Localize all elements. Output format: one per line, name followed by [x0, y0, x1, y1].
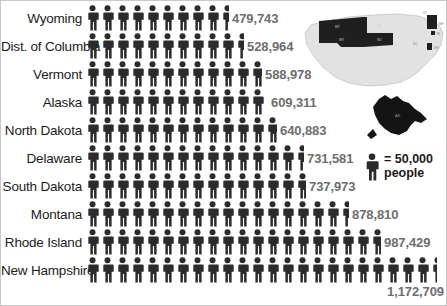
row-pictograms — [85, 201, 349, 227]
row-pictograms — [85, 229, 381, 255]
person-icon — [220, 201, 235, 227]
row-label: North Dakota — [1, 123, 85, 138]
person-icon-partial — [295, 145, 304, 171]
person-icon — [220, 229, 235, 255]
person-icon — [145, 61, 160, 87]
person-icon — [130, 173, 145, 199]
person-icon — [190, 117, 205, 143]
person-icon — [160, 61, 175, 87]
row-label: Dist. of Columbia — [1, 39, 85, 54]
person-icon — [145, 5, 160, 31]
person-icon — [250, 201, 265, 227]
person-icon — [130, 145, 145, 171]
person-icon — [190, 145, 205, 171]
person-icon — [205, 5, 220, 31]
legend: = 50,000 people — [364, 153, 433, 181]
person-icon — [220, 117, 235, 143]
person-icon — [265, 229, 280, 255]
person-icon — [280, 257, 295, 283]
person-icon — [280, 173, 295, 199]
person-icon — [235, 173, 250, 199]
infographic-frame: Wyoming479,743Dist. of Columbia528,964Ve… — [0, 0, 447, 306]
aleutian-tail — [367, 129, 377, 139]
person-icon — [145, 173, 160, 199]
person-icon — [130, 33, 145, 59]
person-icon — [100, 33, 115, 59]
person-icon — [205, 61, 220, 87]
row-pictograms — [85, 61, 262, 87]
person-icon — [175, 33, 190, 59]
person-icon — [160, 89, 175, 115]
person-icon — [115, 5, 130, 31]
person-icon-partial — [235, 33, 244, 59]
row-label: New Hampshire — [1, 263, 85, 278]
person-icon — [235, 145, 250, 171]
person-icon — [190, 173, 205, 199]
person-icon — [295, 229, 310, 255]
person-icon — [370, 257, 385, 283]
row-pictograms — [85, 33, 244, 59]
person-icon — [355, 229, 370, 255]
person-icon — [235, 201, 250, 227]
person-icon — [145, 33, 160, 59]
row-label: South Dakota — [1, 179, 85, 194]
person-icon — [160, 257, 175, 283]
person-icon — [220, 61, 235, 87]
us-states-map: MT ND SD WY VT NH RI DC DE — [301, 3, 447, 89]
row-pictograms — [85, 173, 306, 199]
person-icon — [160, 201, 175, 227]
person-icon — [160, 33, 175, 59]
person-icon — [364, 153, 380, 181]
row-pictograms — [85, 117, 277, 143]
person-icon — [145, 145, 160, 171]
row-pictograms — [85, 89, 268, 115]
person-icon — [160, 117, 175, 143]
person-icon — [175, 145, 190, 171]
person-icon — [160, 229, 175, 255]
person-icon — [145, 89, 160, 115]
person-icon — [115, 89, 130, 115]
person-icon — [205, 201, 220, 227]
nh-label: NH — [439, 22, 443, 26]
person-icon — [130, 5, 145, 31]
person-icon — [85, 61, 100, 87]
row-pictograms — [85, 5, 229, 31]
person-icon — [160, 173, 175, 199]
row-value: 479,743 — [232, 11, 278, 26]
person-icon-partial — [295, 173, 306, 199]
person-icon — [175, 173, 190, 199]
person-icon — [85, 33, 100, 59]
person-icon — [100, 145, 115, 171]
row-value: 1,172,709 — [387, 284, 444, 299]
person-icon — [205, 117, 220, 143]
person-icon — [415, 257, 430, 283]
highlighted-vermont-nh — [427, 15, 437, 29]
person-icon — [190, 229, 205, 255]
row-label: Wyoming — [1, 11, 85, 26]
person-icon — [115, 61, 130, 87]
person-icon — [130, 89, 145, 115]
person-icon-partial — [430, 257, 437, 283]
person-icon-partial — [250, 61, 262, 87]
person-icon — [250, 229, 265, 255]
person-icon — [235, 89, 250, 115]
row-value: 609,311 — [271, 95, 317, 110]
person-icon — [130, 61, 145, 87]
person-icon — [340, 257, 355, 283]
row-value: 528,964 — [247, 39, 293, 54]
person-icon — [115, 33, 130, 59]
person-icon — [100, 89, 115, 115]
person-icon — [190, 89, 205, 115]
person-icon — [190, 257, 205, 283]
person-icon — [250, 89, 265, 115]
svg-text:WY: WY — [339, 38, 345, 42]
legend-text: = 50,000 people — [384, 153, 433, 181]
person-icon — [280, 201, 295, 227]
person-icon — [325, 201, 340, 227]
chart-row: Rhode Island987,429 — [1, 228, 447, 256]
person-icon-partial — [265, 89, 268, 115]
row-pictograms — [85, 145, 304, 171]
row-label: Vermont — [1, 67, 85, 82]
person-icon — [115, 257, 130, 283]
svg-text:RI: RI — [437, 32, 440, 36]
